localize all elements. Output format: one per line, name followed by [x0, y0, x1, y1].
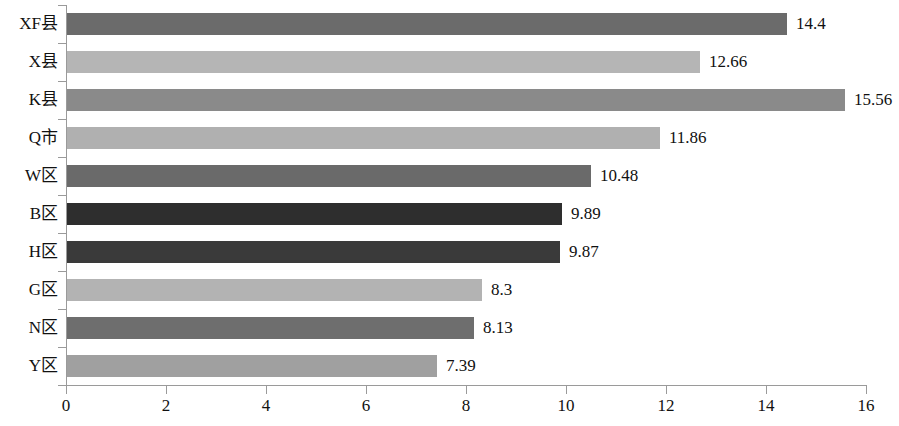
value-tick-label: 0: [46, 396, 86, 416]
category-label: K县: [0, 90, 58, 110]
category-label: X县: [0, 52, 58, 72]
value-tick-label: 4: [246, 396, 286, 416]
bar: [67, 165, 591, 187]
bar: [67, 13, 787, 35]
value-tick: [266, 386, 267, 394]
bar: [67, 89, 845, 111]
value-tick-label: 8: [446, 396, 486, 416]
category-tick: [58, 43, 67, 44]
category-label: XF县: [0, 14, 58, 34]
category-label-text: X县: [2, 52, 58, 72]
bar-value-label: 10.48: [600, 165, 638, 187]
category-tick: [58, 119, 67, 120]
bar-value-label: 8.13: [483, 317, 513, 339]
category-tick: [58, 309, 67, 310]
value-tick: [166, 386, 167, 394]
category-tick: [58, 347, 67, 348]
category-tick: [58, 157, 67, 158]
category-label-text: N区: [2, 318, 58, 338]
category-label-text: H区: [2, 242, 58, 262]
bar-value-label: 9.89: [571, 203, 601, 225]
value-tick-label: 6: [346, 396, 386, 416]
value-tick-label: 14: [746, 396, 786, 416]
bar: [67, 127, 660, 149]
bar-value-label: 12.66: [709, 51, 747, 73]
category-label: Y区: [0, 356, 58, 376]
value-tick-label: 12: [646, 396, 686, 416]
value-tick: [66, 386, 67, 394]
category-label: B区: [0, 204, 58, 224]
bar-value-label: 14.4: [796, 13, 826, 35]
value-tick: [466, 386, 467, 394]
category-label-text: B区: [2, 204, 58, 224]
value-tick: [366, 386, 367, 394]
bar: [67, 279, 482, 301]
category-tick: [58, 233, 67, 234]
bar-chart: 0246810121416 XF县X县K县Q市W区B区H区G区N区Y区 14.4…: [0, 0, 899, 426]
category-tick: [58, 5, 67, 6]
category-label: G区: [0, 280, 58, 300]
bar-value-label: 8.3: [491, 279, 512, 301]
bar: [67, 203, 562, 225]
bar-value-label: 11.86: [669, 127, 707, 149]
bar: [67, 51, 700, 73]
bar-value-label: 15.56: [854, 89, 892, 111]
category-label-text: K县: [2, 90, 58, 110]
category-label: N区: [0, 318, 58, 338]
value-tick: [766, 386, 767, 394]
category-label-text: G区: [2, 280, 58, 300]
bar: [67, 317, 474, 339]
bar-value-label: 9.87: [569, 241, 599, 263]
value-tick: [666, 386, 667, 394]
bar-value-label: 7.39: [446, 355, 476, 377]
bar: [67, 355, 437, 377]
category-label-text: XF县: [2, 14, 58, 34]
category-tick: [58, 195, 67, 196]
category-label-text: Q市: [2, 128, 58, 148]
category-label: Q市: [0, 128, 58, 148]
category-tick: [58, 81, 67, 82]
value-tick: [566, 386, 567, 394]
category-label: H区: [0, 242, 58, 262]
category-tick: [58, 271, 67, 272]
category-label-text: W区: [2, 166, 58, 186]
category-label: W区: [0, 166, 58, 186]
value-tick: [866, 386, 867, 394]
value-tick-label: 2: [146, 396, 186, 416]
category-label-text: Y区: [2, 356, 58, 376]
value-tick-label: 16: [846, 396, 886, 416]
value-tick-label: 10: [546, 396, 586, 416]
bar: [67, 241, 560, 263]
